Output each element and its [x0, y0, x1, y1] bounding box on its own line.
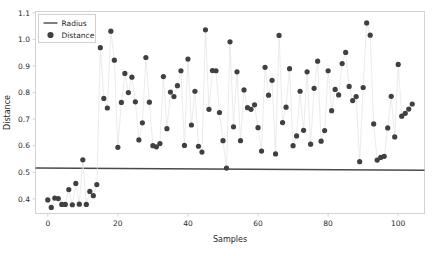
data-point-marker: [80, 157, 85, 162]
data-point-marker: [87, 189, 92, 194]
y-tick-label: 0.5: [18, 168, 30, 177]
data-point-marker: [283, 105, 288, 110]
data-point-marker: [273, 151, 278, 156]
y-tick-label: 0.7: [18, 115, 30, 124]
data-point-marker: [101, 96, 106, 101]
data-point-marker: [301, 128, 306, 133]
data-point-marker: [406, 106, 411, 111]
data-point-marker: [140, 120, 145, 125]
data-point-marker: [336, 92, 341, 97]
data-point-marker: [84, 202, 89, 207]
data-point-marker: [354, 94, 359, 99]
data-point-marker: [227, 39, 232, 44]
data-point-marker: [112, 58, 117, 63]
data-point-marker: [255, 125, 260, 130]
data-point-marker: [343, 50, 348, 55]
data-point-marker: [70, 202, 75, 207]
data-point-marker: [105, 105, 110, 110]
data-point-marker: [203, 27, 208, 32]
data-point-marker: [234, 69, 239, 74]
data-point-marker: [63, 202, 68, 207]
data-point-marker: [287, 66, 292, 71]
data-point-marker: [294, 133, 299, 138]
data-point-marker: [147, 100, 152, 105]
data-point-marker: [326, 68, 331, 73]
data-point-marker: [259, 148, 264, 153]
data-point-marker: [108, 29, 113, 34]
data-point-marker: [199, 150, 204, 155]
data-point-marker: [389, 94, 394, 99]
data-point-marker: [164, 126, 169, 131]
data-point-marker: [361, 85, 366, 90]
data-point-marker: [189, 122, 194, 127]
data-point-marker: [56, 196, 61, 201]
data-point-marker: [45, 197, 50, 202]
data-point-marker: [340, 61, 345, 66]
data-point-marker: [224, 165, 229, 170]
data-point-marker: [312, 86, 317, 91]
data-point-marker: [217, 110, 222, 115]
y-tick-label: 0.6: [18, 141, 30, 150]
data-point-marker: [241, 87, 246, 92]
data-point-marker: [119, 100, 124, 105]
data-point-marker: [403, 111, 408, 116]
x-axis-label: Samples: [213, 235, 247, 244]
x-tick-label: 60: [253, 219, 263, 228]
y-tick-label: 1.1: [18, 9, 30, 18]
data-point-marker: [171, 94, 176, 99]
data-point-marker: [396, 62, 401, 67]
x-tick-label: 0: [45, 219, 50, 228]
data-point-marker: [315, 59, 320, 64]
data-point-marker: [91, 193, 96, 198]
data-point-marker: [178, 68, 183, 73]
y-axis-label: Distance: [3, 95, 12, 130]
x-tick-label: 20: [113, 219, 123, 228]
data-point-marker: [133, 99, 138, 104]
y-tick-label: 0.4: [18, 195, 30, 204]
distance-vs-samples-chart: 020406080100 0.40.50.60.70.80.91.01.1 Sa…: [0, 0, 447, 256]
y-tick-label: 1.0: [18, 35, 30, 44]
data-point-marker: [262, 65, 267, 70]
data-point-marker: [252, 102, 257, 107]
legend-entry-label: Radius: [62, 19, 87, 28]
data-point-marker: [248, 107, 253, 112]
data-point-marker: [231, 124, 236, 129]
data-point-marker: [410, 101, 415, 106]
data-point-marker: [196, 144, 201, 149]
data-point-marker: [161, 74, 166, 79]
y-tick-label: 0.8: [18, 88, 30, 97]
x-tick-label: 80: [323, 219, 333, 228]
data-point-marker: [371, 121, 376, 126]
data-point-marker: [98, 45, 103, 50]
data-point-marker: [49, 205, 54, 210]
data-point-marker: [136, 137, 141, 142]
data-point-marker: [322, 128, 327, 133]
data-point-marker: [297, 89, 302, 94]
chart-legend: RadiusDistance: [39, 15, 96, 43]
data-point-marker: [77, 202, 82, 207]
data-point-marker: [220, 138, 225, 143]
data-point-marker: [168, 89, 173, 94]
data-point-marker: [319, 139, 324, 144]
data-point-marker: [66, 187, 71, 192]
data-point-marker: [126, 90, 131, 95]
data-point-marker: [357, 159, 362, 164]
data-point-marker: [385, 125, 390, 130]
data-point-marker: [175, 83, 180, 88]
data-point-marker: [368, 33, 373, 38]
x-tick-label: 100: [391, 219, 406, 228]
data-point-marker: [276, 33, 281, 38]
data-point-marker: [206, 107, 211, 112]
data-point-marker: [238, 138, 243, 143]
data-point-marker: [192, 89, 197, 94]
data-point-marker: [129, 75, 134, 80]
legend-marker-swatch: [47, 32, 53, 38]
y-tick-label: 0.9: [18, 62, 30, 71]
data-point-marker: [350, 98, 355, 103]
x-tick-label: 40: [183, 219, 193, 228]
data-point-marker: [382, 154, 387, 159]
data-point-marker: [213, 68, 218, 73]
data-point-marker: [182, 143, 187, 148]
data-point-marker: [266, 93, 271, 98]
data-point-marker: [290, 143, 295, 148]
